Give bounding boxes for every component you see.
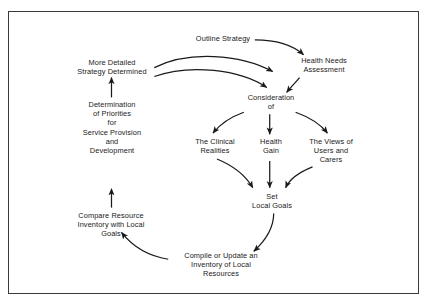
node-determination-of-priorities: Determination of Priorities for Service … (66, 100, 158, 155)
node-compile-or-update-inventory: Compile or Update an Inventory of Local … (166, 251, 276, 279)
edge-consideration-to-clinical-realities (213, 112, 244, 133)
node-consideration-of: Consideration of (237, 93, 305, 111)
node-set-local-goals: Set Local Goals (241, 192, 303, 210)
node-views-of-users-and-carers: The Views of Users and Carers (297, 137, 365, 165)
node-outline-strategy: Outline Strategy (187, 34, 259, 43)
node-compare-resource-inventory: Compare Resource Inventory with Local Go… (59, 211, 163, 239)
edge-set-local-goals-to-compile-update (254, 214, 274, 252)
edge-health-needs-to-consideration (287, 78, 300, 93)
edge-clinical-realities-to-set-local-goals (217, 159, 253, 188)
node-more-detailed-strategy: More Detailed Strategy Determined (66, 58, 158, 76)
diagram-frame: Outline Strategy Health Needs Assessment… (8, 11, 419, 294)
edge-more-detailed-to-health-needs (154, 56, 272, 71)
edge-views-users-to-set-local-goals (286, 167, 313, 188)
edge-more-detailed-to-consideration (154, 70, 266, 88)
edge-consideration-to-views-users (296, 112, 328, 133)
node-clinical-realities: The Clinical Realities (181, 137, 249, 155)
node-health-needs-assessment: Health Needs Assessment (290, 56, 358, 74)
node-health-gain: Health Gain (247, 137, 295, 155)
edge-outline-strategy-to-health-needs (255, 40, 304, 55)
